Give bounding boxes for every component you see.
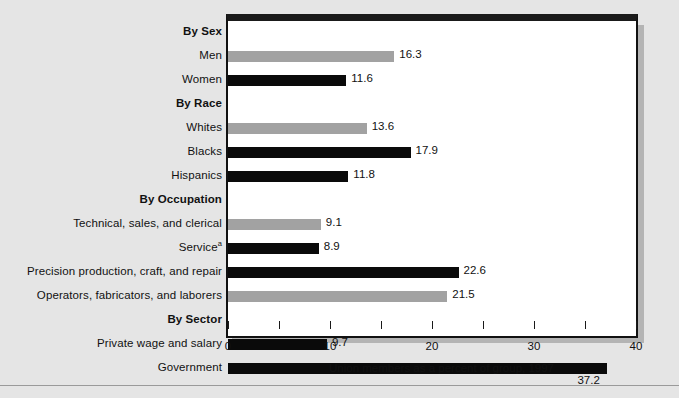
group-heading-row: By Sex <box>0 21 679 45</box>
bar-value-label: 16.3 <box>399 48 421 60</box>
bar-value-label: 22.6 <box>464 264 486 276</box>
x-axis-tick <box>483 321 484 329</box>
bar-row: Servicea8.9 <box>0 237 679 261</box>
x-axis-title-text: Union members as a percent of group, 199… <box>329 362 554 374</box>
bar-value-label: 13.6 <box>372 120 394 132</box>
x-axis-tick <box>228 321 229 329</box>
x-axis-tick <box>432 321 433 329</box>
group-heading-label: By Race <box>176 97 222 109</box>
bar-category-label: Whites <box>186 121 222 133</box>
x-axis-tick-label: 30 <box>528 340 541 352</box>
bar-row: Technical, sales, and clerical9.1 <box>0 213 679 237</box>
x-axis-tick-label: 20 <box>426 340 439 352</box>
bar-category-label: Hispanics <box>171 169 222 181</box>
footnote-marker: a <box>218 239 222 248</box>
bar-value-label: 8.9 <box>324 240 340 252</box>
x-axis-tick <box>636 321 637 329</box>
bar <box>228 291 447 302</box>
x-axis-tick <box>585 321 586 329</box>
bar-category-label: Servicea <box>179 241 222 253</box>
bar <box>228 219 321 230</box>
bar <box>228 243 319 254</box>
x-axis-tick <box>381 321 382 329</box>
bar-row: Operators, fabricators, and laborers21.5 <box>0 285 679 309</box>
bar-row: Whites13.6 <box>0 117 679 141</box>
bar-category-label: Technical, sales, and clerical <box>73 217 222 229</box>
x-axis-tick-label: 10 <box>324 340 337 352</box>
x-axis-tick-label: 40 <box>630 340 643 352</box>
bar-row: Women11.6 <box>0 69 679 93</box>
bar <box>228 75 346 86</box>
chart-figure: By SexMen16.3Women11.6By RaceWhites13.6B… <box>0 0 679 398</box>
bar <box>228 171 348 182</box>
bar-row: Blacks17.9 <box>0 141 679 165</box>
bar-row: Hispanics11.8 <box>0 165 679 189</box>
bar-value-label: 11.8 <box>353 168 375 180</box>
x-axis-tick <box>534 321 535 329</box>
bar-row: Men16.3 <box>0 45 679 69</box>
group-heading-label: By Sex <box>183 25 222 37</box>
group-heading-label: By Occupation <box>140 193 222 205</box>
bar-value-label: 9.1 <box>326 216 342 228</box>
bar <box>228 51 394 62</box>
x-axis-tick <box>279 321 280 329</box>
x-axis-tick <box>330 321 331 329</box>
x-axis-tick-label: 0 <box>225 340 231 352</box>
group-heading-label: By Sector <box>167 313 222 325</box>
bottom-divider <box>0 385 679 386</box>
bar-category-label: Blacks <box>188 145 222 157</box>
x-axis-tick-labels: 010203040 <box>0 340 679 356</box>
bar-value-label: 17.9 <box>416 144 438 156</box>
bar-row: Precision production, craft, and repair2… <box>0 261 679 285</box>
bar-category-label: Operators, fabricators, and laborers <box>37 289 222 301</box>
bar-category-label: Precision production, craft, and repair <box>27 265 222 277</box>
bar-value-label: 21.5 <box>452 288 474 300</box>
bar-category-label: Men <box>199 49 222 61</box>
group-heading-row: By Race <box>0 93 679 117</box>
x-axis-ticks <box>228 321 636 329</box>
group-heading-row: By Occupation <box>0 189 679 213</box>
bar-category-label: Women <box>182 73 222 85</box>
bar-value-label: 11.6 <box>351 72 373 84</box>
bar <box>228 123 367 134</box>
bar <box>228 267 459 278</box>
bar <box>228 147 411 158</box>
x-axis-title: Union members as a percent of group, 199… <box>0 362 679 374</box>
